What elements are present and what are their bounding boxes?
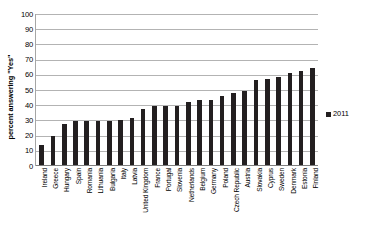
category-slot: Slovakia [250, 168, 261, 232]
category-slot: Austria [239, 168, 250, 232]
y-tick-label-90: 90 [14, 24, 33, 35]
bar-latvia [130, 118, 135, 165]
bar-finland [310, 68, 315, 165]
category-slot: Latvia [126, 168, 137, 232]
bar-portugal [163, 106, 168, 165]
y-tick-label-10: 10 [14, 145, 33, 156]
bar-slot [239, 14, 250, 165]
bar-netherlands [186, 102, 191, 165]
bar-denmark [288, 73, 293, 165]
x-axis-baseline [36, 165, 318, 166]
bar-slovenia [175, 106, 180, 165]
category-slot: Estonia [295, 168, 306, 232]
category-slot: Belgium [193, 168, 204, 232]
x-axis-category-labels: IrelandGreeceHungarySpainRomaniaLithuani… [35, 168, 318, 232]
category-slot: Lithuania [92, 168, 103, 232]
bar-slot [217, 14, 228, 165]
bar-poland [220, 96, 225, 165]
bar-slot [228, 14, 239, 165]
category-slot: Netherlands [182, 168, 193, 232]
category-slot: Hungary [58, 168, 69, 232]
y-tick-label-40: 40 [14, 100, 33, 111]
bar-slot [171, 14, 182, 165]
bar-greece [51, 136, 56, 165]
bar-slot [59, 14, 70, 165]
y-tick-label-80: 80 [14, 39, 33, 50]
bar-estonia [299, 71, 304, 165]
category-slot: United Kingdom [137, 168, 148, 232]
bar-hungary [62, 124, 67, 165]
category-slot: France [148, 168, 159, 232]
y-tick-label-50: 50 [14, 85, 33, 96]
bar-slot [194, 14, 205, 165]
bar-czech-republic [231, 93, 236, 165]
plot-area [35, 14, 318, 166]
category-slot: Germany [205, 168, 216, 232]
bar-slovakia [254, 80, 259, 165]
bar-united-kingdom [141, 109, 146, 165]
category-slot: Denmark [284, 168, 295, 232]
bar-spain [73, 121, 78, 165]
category-slot: Czech Republic [227, 168, 238, 232]
bar-slot [126, 14, 137, 165]
legend: 2011 [326, 110, 349, 118]
category-slot: Cyprus [261, 168, 272, 232]
bar-italy [118, 120, 123, 165]
bar-slot [160, 14, 171, 165]
y-tick-label-0: 0 [14, 161, 33, 172]
bar-slot [183, 14, 194, 165]
bar-slot [47, 14, 58, 165]
category-slot: Ireland [35, 168, 46, 232]
bar-slot [92, 14, 103, 165]
bar-slot [262, 14, 273, 165]
category-slot: Portugal [159, 168, 170, 232]
bar-sweden [276, 77, 281, 165]
category-slot: Sweden [273, 168, 284, 232]
bar-germany [209, 100, 214, 165]
bar-lithuania [96, 121, 101, 165]
bar-slot [115, 14, 126, 165]
bar-slot [104, 14, 115, 165]
bar-austria [242, 91, 247, 165]
bar-slot [138, 14, 149, 165]
category-slot: Italy [114, 168, 125, 232]
legend-label-2011: 2011 [333, 110, 349, 118]
bar-slot [70, 14, 81, 165]
y-tick-label-100: 100 [14, 9, 33, 20]
bar-cyprus [265, 79, 270, 165]
bar-ireland [39, 145, 44, 165]
bar-slot [307, 14, 318, 165]
category-slot: Slovenia [171, 168, 182, 232]
bar-slot [295, 14, 306, 165]
bar-slot [81, 14, 92, 165]
category-label-finland: Finland [312, 168, 319, 189]
bar-belgium [197, 100, 202, 165]
category-slot: Bulgaria [103, 168, 114, 232]
bar-romania [84, 121, 89, 165]
bar-slot [36, 14, 47, 165]
legend-swatch-2011 [326, 112, 331, 117]
category-slot: Finland [307, 168, 318, 232]
y-tick-label-20: 20 [14, 130, 33, 141]
bar-slot [149, 14, 160, 165]
bar-chart-figure: percent answering "Yes" 1009080706050403… [0, 0, 367, 233]
bar-bulgaria [107, 121, 112, 165]
category-slot: Spain [69, 168, 80, 232]
category-slot: Romania [80, 168, 91, 232]
y-tick-label-60: 60 [14, 69, 33, 80]
bar-slot [205, 14, 216, 165]
bars-layer [36, 14, 318, 165]
y-tick-label-30: 30 [14, 115, 33, 126]
category-slot: Greece [46, 168, 57, 232]
category-slot: Poland [216, 168, 227, 232]
bar-slot [284, 14, 295, 165]
bar-slot [250, 14, 261, 165]
bar-slot [273, 14, 284, 165]
y-axis-tick-labels: 1009080706050403020100 [14, 8, 33, 172]
y-tick-label-70: 70 [14, 54, 33, 65]
bar-france [152, 106, 157, 165]
